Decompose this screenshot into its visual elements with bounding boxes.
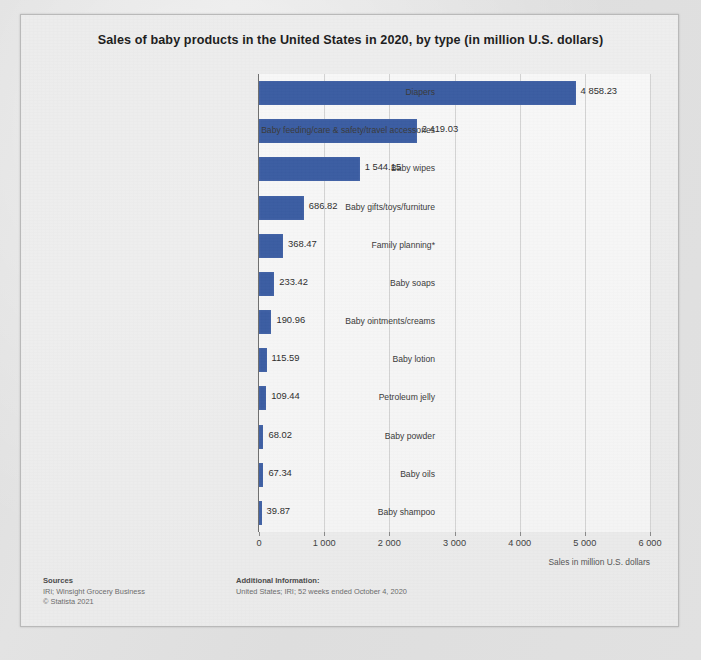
bar[interactable] [259, 463, 263, 487]
category-label: Baby shampoo [378, 507, 435, 517]
x-axis-tick [455, 532, 456, 536]
category-label: Baby lotion [392, 354, 435, 364]
additional-information-block: Additional Information: United States; I… [236, 576, 407, 597]
bar[interactable] [259, 272, 274, 296]
bar-value-label: 686.82 [309, 200, 338, 211]
bar-row: 109.44 [259, 379, 650, 417]
category-label: Petroleum jelly [379, 392, 435, 402]
category-label: Baby powder [385, 431, 435, 441]
category-label: Baby soaps [390, 278, 435, 288]
chart-title: Sales of baby products in the United Sta… [21, 33, 680, 47]
bar-row: 115.59 [259, 341, 650, 379]
bar-value-label: 233.42 [279, 276, 308, 287]
chart-card: Sales of baby products in the United Sta… [20, 14, 679, 627]
x-axis-tick [324, 532, 325, 536]
x-axis-tick-label: 6 000 [639, 538, 662, 548]
bar[interactable] [259, 234, 283, 258]
sources-heading: Sources [43, 576, 145, 586]
additional-information-heading: Additional Information: [236, 576, 407, 586]
category-label: Diapers [405, 87, 435, 97]
bar[interactable] [259, 310, 271, 334]
bar-row: 233.42 [259, 265, 650, 303]
x-axis-tick [650, 532, 651, 536]
category-label: Baby oils [400, 469, 435, 479]
x-axis-tick [520, 532, 521, 536]
bar-row: 1 544.15 [259, 150, 650, 188]
bar-value-label: 4 858.23 [581, 85, 618, 96]
bar-row: 368.47 [259, 227, 650, 265]
x-axis-tick [389, 532, 390, 536]
category-label: Family planning* [371, 240, 435, 250]
x-axis-tick-label: 2 000 [378, 538, 401, 548]
bar-row: 686.82 [259, 189, 650, 227]
bar-value-label: 109.44 [271, 390, 300, 401]
bar-row: 190.96 [259, 303, 650, 341]
bar[interactable] [259, 157, 360, 181]
additional-information-line-1: United States; IRI; 52 weeks ended Octob… [236, 587, 407, 597]
x-axis-title: Sales in million U.S. dollars [549, 557, 650, 567]
bar-value-label: 68.02 [268, 429, 291, 440]
bar-row: 68.02 [259, 418, 650, 456]
x-axis-tick-label: 5 000 [573, 538, 596, 548]
category-label: Baby wipes [391, 163, 435, 173]
bar[interactable] [259, 386, 266, 410]
category-label: Baby ointments/creams [345, 316, 435, 326]
bar-value-label: 67.34 [268, 467, 291, 478]
bar-value-label: 39.87 [267, 505, 290, 516]
sources-block: Sources IRi; Winsight Grocery Business ©… [43, 576, 145, 607]
bar-row: 39.87 [259, 494, 650, 532]
x-axis-tick-label: 1 000 [313, 538, 336, 548]
bar[interactable] [259, 425, 263, 449]
x-axis-tick [585, 532, 586, 536]
sources-line-1: IRi; Winsight Grocery Business [43, 587, 145, 597]
bar-value-label: 190.96 [276, 314, 305, 325]
x-axis-tick [259, 532, 260, 536]
x-axis-tick-label: 0 [256, 538, 261, 548]
x-axis-tick-label: 3 000 [443, 538, 466, 548]
gridline [650, 74, 651, 532]
x-axis-tick-label: 4 000 [508, 538, 531, 548]
page-background: Sales of baby products in the United Sta… [0, 0, 701, 660]
bar[interactable] [259, 196, 304, 220]
bar-row: 4 858.23 [259, 74, 650, 112]
copyright-line: © Statista 2021 [43, 597, 145, 607]
category-label: Baby feeding/care & safety/travel access… [261, 125, 435, 135]
category-label: Baby gifts/toys/furniture [345, 202, 435, 212]
bar[interactable] [259, 501, 262, 525]
bar[interactable] [259, 348, 267, 372]
bar-row: 67.34 [259, 456, 650, 494]
plot-area: 4 858.232 419.031 544.15686.82368.47233.… [258, 74, 650, 532]
bar-value-label: 115.59 [272, 352, 300, 363]
bar-value-label: 368.47 [288, 238, 317, 249]
